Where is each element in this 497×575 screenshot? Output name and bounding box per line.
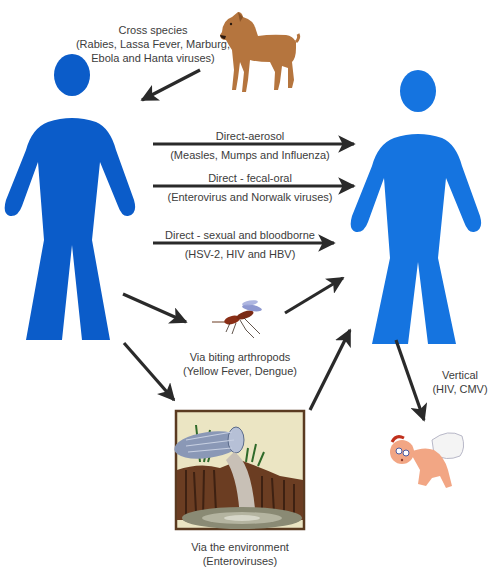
arthropods-detail: (Yellow Fever, Dengue) [170,364,310,378]
baby-icon [390,433,464,488]
cross-species-title: Cross species [58,23,248,37]
virus-transmission-diagram: Cross species (Rabies, Lassa Fever, Marb… [0,0,497,575]
vertical-title: Vertical [425,368,495,382]
arthropods-title: Via biting arthropods [170,350,310,364]
fecal-oral-title: Direct - fecal-oral [150,171,350,185]
mosquito-icon [212,299,262,338]
aerosol-title: Direct-aerosol [150,129,350,143]
vertical-label: Vertical (HIV, CMV) [425,368,495,396]
target-person-icon [351,70,481,344]
fecal-oral-detail: (Enterovirus and Norwalk viruses) [150,190,350,204]
vertical-arrow [396,340,424,420]
diagram-graphics [0,0,497,575]
environment-title: Via the environment [170,540,310,554]
cross-species-label: Cross species (Rabies, Lassa Fever, Marb… [58,23,248,65]
arthropods-label: Via biting arthropods (Yellow Fever, Den… [170,350,310,378]
cross-species-arrow [142,70,200,100]
from-mosquito-arrow [285,278,343,313]
aerosol-detail: (Measles, Mumps and Influenza) [150,148,350,162]
to-environment-arrow [124,343,174,400]
from-environment-arrow [310,330,350,410]
cross-species-detail-2: Ebola and Hanta viruses) [58,51,248,65]
sexual-title: Direct - sexual and bloodborne [150,228,330,242]
sewage-pipe-icon [173,411,304,529]
to-mosquito-arrow [123,294,186,322]
sexual-detail: (HSV-2, HIV and HBV) [150,247,330,261]
environment-label: Via the environment (Enteroviruses) [170,540,310,568]
environment-detail: (Enteroviruses) [170,554,310,568]
source-person-icon [5,54,135,340]
cross-species-detail-1: (Rabies, Lassa Fever, Marburg, [58,37,248,51]
vertical-detail: (HIV, CMV) [425,382,495,396]
